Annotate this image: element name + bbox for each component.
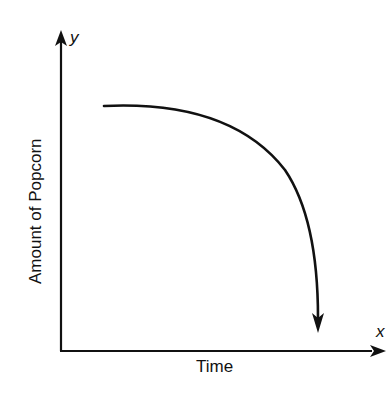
x-axis-symbol: x bbox=[376, 322, 385, 342]
chart-canvas bbox=[0, 0, 390, 408]
popcorn-curve bbox=[104, 106, 318, 318]
y-axis-label: Amount of Popcorn bbox=[26, 138, 46, 284]
y-axis-symbol: y bbox=[70, 28, 79, 48]
x-axis-label: Time bbox=[196, 357, 233, 377]
x-axis-arrow-icon bbox=[370, 345, 386, 357]
